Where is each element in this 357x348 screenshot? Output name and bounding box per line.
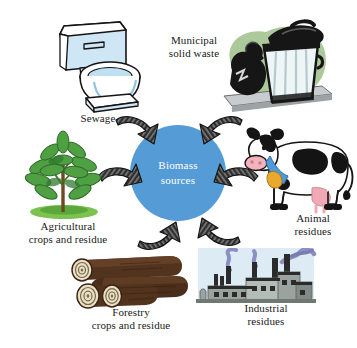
arrow-from-municipal-solid-waste xyxy=(192,112,244,154)
node-sewage[interactable] xyxy=(46,12,150,116)
node-municipal-solid-waste[interactable] xyxy=(222,14,334,114)
label-animal-residues: Animal residues xyxy=(272,212,354,237)
cow-icon xyxy=(240,122,356,214)
arrow-from-industrial-residues xyxy=(192,208,242,250)
label-forestry-crops: Forestry crops and residue xyxy=(66,306,196,331)
node-agricultural-crops[interactable] xyxy=(16,126,112,222)
toilet-icon xyxy=(46,12,150,116)
label-municipal-solid-waste: Municipal solid waste xyxy=(150,34,238,59)
plant-icon xyxy=(16,126,112,222)
hub-label: Biomass sources xyxy=(158,158,197,188)
factory-icon xyxy=(196,248,320,308)
node-industrial-residues[interactable] xyxy=(196,248,320,308)
label-sewage: Sewage xyxy=(48,112,148,125)
node-animal-residues[interactable] xyxy=(240,122,356,214)
label-industrial-residues: Industrial residues xyxy=(218,302,314,327)
arrow-from-forestry-crops xyxy=(136,212,186,254)
label-agricultural-crops: Agricultural crops and residue xyxy=(8,220,128,245)
biomass-sources-diagram: Biomass sources xyxy=(0,0,357,348)
trash-can-icon xyxy=(222,14,334,114)
